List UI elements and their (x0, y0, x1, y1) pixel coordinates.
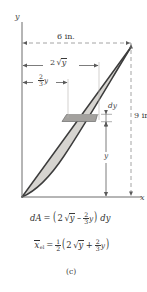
fraction-variable-y: y (44, 77, 48, 85)
y-axis-label: y (15, 13, 20, 21)
eq-centroid-close-paren: ) (106, 237, 109, 250)
eq-area-coef: 2 (58, 213, 63, 223)
eq-centroid-half: 1 2 (55, 239, 61, 252)
x-axis-label: x (140, 194, 145, 202)
eq-area-close-paren: ) (94, 210, 97, 223)
eq-centroid-open-paren: ( (62, 237, 65, 250)
eq-area-minus: – (75, 213, 83, 223)
dimension-label-dy: dy (108, 102, 117, 109)
dimension-label-2sqrty: 2√y (48, 58, 69, 67)
eq-centroid-frac-var: y (101, 241, 105, 250)
eq-centroid-coef: 2 (66, 240, 71, 250)
eq-centroid-plus: + (84, 240, 95, 250)
figure-caption: (c) (66, 268, 76, 276)
coef-2: 2 (50, 58, 55, 67)
dimension-label-6in: 6 in. (55, 33, 77, 41)
eq-centroid-half-den: 2 (55, 245, 61, 252)
dimension-label-twothirdsy: 2 3 y (36, 74, 50, 87)
equation-centroid: xel= 1 2 (2√y+ 2 3 y) (34, 237, 110, 252)
eq-area-equals: = (41, 213, 52, 223)
differential-strip (62, 115, 98, 122)
eq-centroid-radicand: y (78, 240, 84, 249)
eq-area-trail-y: y (106, 213, 111, 223)
equation-area: dA=(2√y– 2 3 y)dy (30, 210, 110, 225)
dimension-label-9in: 9 in. (133, 112, 147, 120)
radicand-y: y (61, 58, 67, 67)
eq-area-open-paren: ( (53, 210, 56, 223)
dimension-label-y: y (103, 152, 109, 159)
eq-centroid-equals: = (44, 240, 55, 250)
eq-area-frac-var: y (89, 214, 93, 223)
